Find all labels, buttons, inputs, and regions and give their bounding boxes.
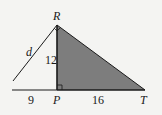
shaded-triangle-rpt [57,25,145,90]
label-9: 9 [28,93,34,107]
label-r: R [52,9,61,23]
label-12: 12 [45,53,57,67]
label-d: d [26,45,33,59]
label-t: T [140,93,148,107]
label-p: P [52,93,61,107]
geometry-diagram: R d 12 9 P 16 T [0,0,162,115]
label-16: 16 [92,93,104,107]
